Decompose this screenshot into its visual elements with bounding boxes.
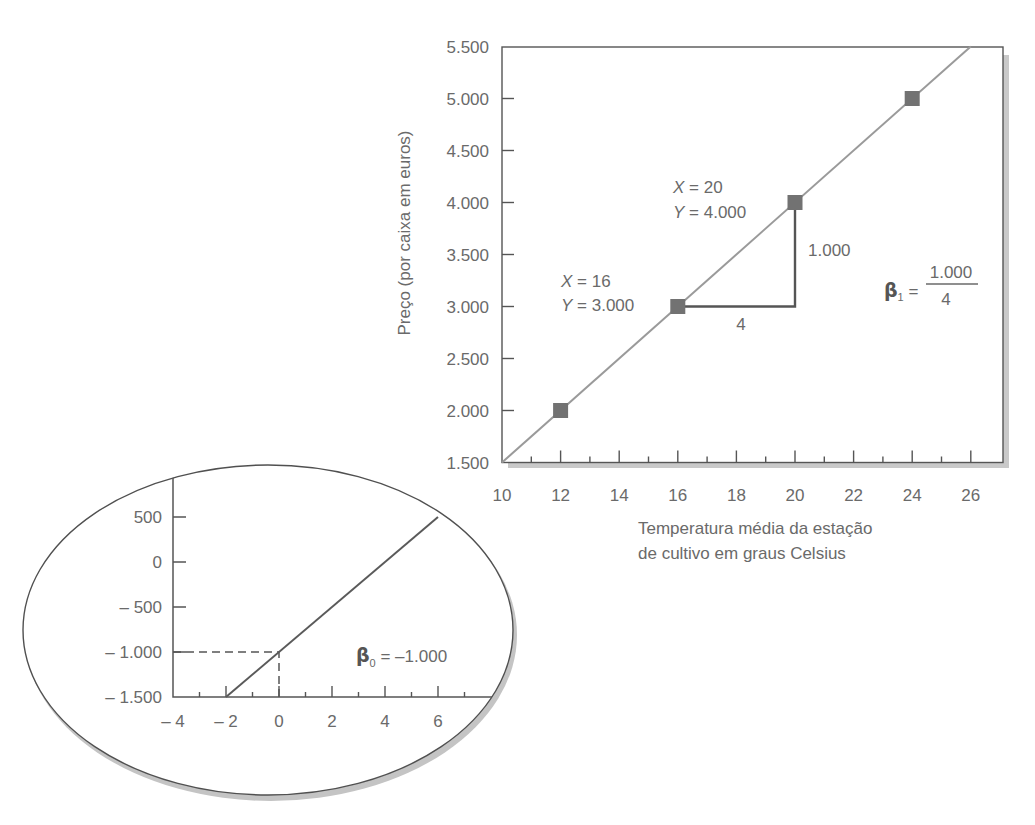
y-tick-label: 1.500 xyxy=(446,454,489,473)
inset-y-tick-label: 0 xyxy=(153,553,162,572)
y-tick-label: 5.500 xyxy=(446,38,489,57)
y-axis-title: Preço (por caixa em euros) xyxy=(395,130,414,335)
x-tick-label: 22 xyxy=(844,486,863,505)
run-label: 4 xyxy=(736,315,745,334)
inset-x-tick-label: 0 xyxy=(274,712,283,731)
upper-point-y-annotation: Y = 4.000 xyxy=(673,203,746,222)
inset-x-tick-label: – 4 xyxy=(161,712,185,731)
inset-ellipse xyxy=(23,465,513,795)
main-y-tick-labels: 1.5002.0002.5003.0003.5004.0004.5005.000… xyxy=(446,38,489,473)
y-tick-label: 5.000 xyxy=(446,90,489,109)
inset-chart: – 1.500– 1.000– 5000500 – 4– 20246 β0 = … xyxy=(23,455,520,801)
main-x-tick-labels: 101214161820222426 xyxy=(493,486,981,505)
x-tick-label: 26 xyxy=(961,486,980,505)
slope-numerator: 1.000 xyxy=(930,263,973,282)
y-tick-label: 3.000 xyxy=(446,298,489,317)
y-tick-label: 3.500 xyxy=(446,246,489,265)
figure-canvas: 1.5002.0002.5003.0003.5004.0004.5005.000… xyxy=(0,0,1035,825)
x-axis-title-line-2: de cultivo em graus Celsius xyxy=(638,544,846,563)
lower-point-x-annotation: X = 16 xyxy=(560,272,611,291)
main-chart-shadow-right xyxy=(1003,55,1009,468)
main-chart: 1.5002.0002.5003.0003.5004.0004.5005.000… xyxy=(395,38,1009,564)
x-tick-label: 14 xyxy=(610,486,629,505)
inset-x-tick-label: 2 xyxy=(327,712,336,731)
inset-x-tick-label: – 2 xyxy=(214,712,238,731)
y-tick-label: 4.500 xyxy=(446,142,489,161)
inset-y-tick-label: – 1.500 xyxy=(105,688,162,707)
inset-x-tick-label: 4 xyxy=(380,712,389,731)
upper-point-x-annotation: X = 20 xyxy=(672,178,723,197)
data-point-marker xyxy=(788,195,803,210)
slope-symbol: β1 = xyxy=(884,279,923,303)
inset-y-tick-label: 500 xyxy=(134,508,162,527)
lower-point-y-annotation: Y = 3.000 xyxy=(561,296,634,315)
data-point-marker xyxy=(905,91,920,106)
y-tick-label: 4.000 xyxy=(446,194,489,213)
x-tick-label: 24 xyxy=(903,486,922,505)
slope-denominator: 4 xyxy=(941,290,950,309)
x-tick-label: 20 xyxy=(786,486,805,505)
x-tick-label: 12 xyxy=(551,486,570,505)
x-tick-label: 18 xyxy=(727,486,746,505)
inset-y-tick-label: – 500 xyxy=(119,598,162,617)
data-point-marker xyxy=(553,403,568,418)
rise-label: 1.000 xyxy=(808,241,851,260)
x-axis-title-line-1: Temperatura média da estação xyxy=(638,519,872,538)
y-tick-label: 2.500 xyxy=(446,350,489,369)
x-tick-label: 16 xyxy=(668,486,687,505)
inset-x-tick-label: 6 xyxy=(433,712,442,731)
data-point-marker xyxy=(670,299,685,314)
inset-y-tick-label: – 1.000 xyxy=(105,643,162,662)
x-tick-label: 10 xyxy=(493,486,512,505)
main-chart-plot-frame xyxy=(502,47,1003,463)
y-tick-label: 2.000 xyxy=(446,402,489,421)
